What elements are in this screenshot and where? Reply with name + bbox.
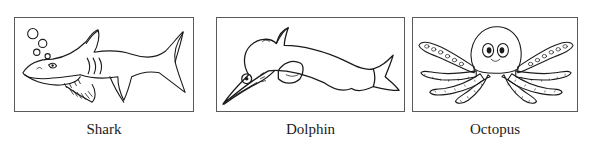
caption-shark: Shark [14,118,194,140]
shark-line-drawing [15,18,193,111]
panel-octopus [412,17,578,112]
octopus-mantle [471,27,521,74]
octopus-suckers-upper-left [425,45,464,66]
shark-pupil [51,64,53,66]
dolphin-fin-crease [286,75,298,76]
dolphin-blowhole [263,40,270,41]
dolphin-line-drawing [217,18,404,111]
octopus-line-drawing [413,18,577,111]
octopus-pupil-left [487,47,492,53]
panel-shark [14,17,194,112]
dolphin-pupil [245,77,249,81]
bubble-small [34,49,40,55]
panel-dolphin [216,17,405,112]
octopus-mouth [491,59,500,61]
dolphin-body-outline [223,28,399,104]
bubble-medium [39,39,47,47]
shark-body-outline [23,30,185,100]
shark-dorsal-fin-edge [86,31,98,44]
shark-nostril [37,67,42,68]
dolphin-mouth [227,83,257,101]
octopus-suckers-upper-right [528,45,567,66]
octopus-tentacle-lower-right [508,74,562,95]
octopus-pupil-right [500,47,505,53]
caption-octopus: Octopus [412,118,578,140]
octopus-tentacle-mid-right [516,71,571,80]
caption-dolphin: Dolphin [216,118,405,140]
bubble-tiny [45,54,50,59]
dolphin-fluke-notch [373,69,374,87]
shark-jaw-hatching [69,88,92,99]
illustration-sheet: Shark [0,0,595,149]
shark-gill-slits [87,58,101,74]
octopus-tentacle-mid-left [421,71,476,80]
bubble-large [28,29,38,39]
shark-pectoral-fin [110,77,124,102]
octopus-tentacle-lower-left [430,74,484,95]
